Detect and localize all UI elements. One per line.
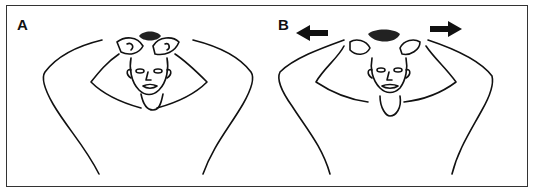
- person-hands-on-head-illustration: [7, 6, 268, 188]
- panel-a: A: [7, 6, 268, 188]
- right-arrow-icon: [430, 21, 462, 37]
- panel-b: B: [268, 6, 529, 188]
- left-arrow-icon: [296, 25, 328, 41]
- person-elbows-apart-illustration: [268, 6, 529, 188]
- figure-frame: A: [6, 5, 528, 187]
